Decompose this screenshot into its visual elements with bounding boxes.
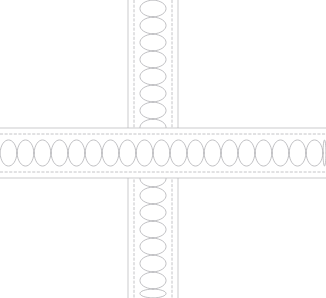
wall-intersection-detail-drawing	[0, 0, 326, 298]
wall-junction-cover	[0, 128, 326, 178]
detail-svg-canvas	[0, 0, 326, 298]
